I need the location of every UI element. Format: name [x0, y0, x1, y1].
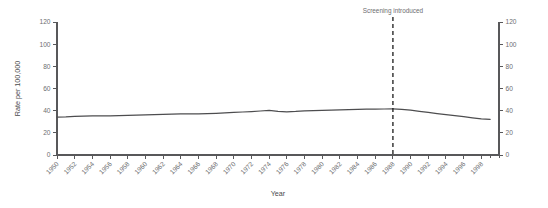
y-axis-right: 020406080100120 — [499, 18, 517, 158]
annotation-group: Screening introduced — [363, 7, 424, 155]
y-axis-right-tick-label: 100 — [506, 41, 517, 48]
y-axis-left: 020406080100120 — [39, 18, 57, 158]
x-axis-tick-label: 1978 — [292, 160, 308, 176]
x-axis-tick-label: 1962 — [151, 160, 167, 176]
x-axis-tick-label: 1986 — [363, 160, 379, 176]
y-axis-tick-label: 60 — [43, 85, 51, 92]
data-series-group — [57, 109, 490, 119]
x-axis-tick-label: 1956 — [98, 160, 114, 176]
x-axis-tick-label: 1992 — [416, 160, 432, 176]
x-axis-tick-label: 1972 — [239, 160, 255, 176]
line-chart: 020406080100120 020406080100120 19501952… — [0, 0, 548, 208]
x-axis-tick-label: 1950 — [45, 160, 61, 176]
x-axis-tick-label: 1976 — [274, 160, 290, 176]
y-axis-tick-label: 120 — [39, 18, 50, 25]
x-axis-tick-label: 1988 — [381, 160, 397, 176]
x-axis-tick-label: 1952 — [62, 160, 78, 176]
x-axis-tick-label: 1968 — [204, 160, 220, 176]
y-axis-right-tick-label: 80 — [506, 63, 514, 70]
y-axis-tick-label: 0 — [47, 151, 51, 158]
x-axis-tick-label: 1954 — [80, 160, 96, 176]
x-axis-tick-label: 1984 — [345, 160, 361, 176]
y-axis-tick-label: 100 — [39, 41, 50, 48]
screening-introduced-label: Screening introduced — [363, 7, 424, 15]
x-axis-tick-label: 1982 — [327, 160, 343, 176]
x-axis-tick-label: 1960 — [133, 160, 149, 176]
y-axis-tick-label: 40 — [43, 107, 51, 114]
chart-container: 020406080100120 020406080100120 19501952… — [0, 0, 548, 208]
x-axis-tick-label: 1974 — [257, 160, 273, 176]
y-axis-right-tick-label: 120 — [506, 18, 517, 25]
x-axis-tick-label: 1996 — [451, 160, 467, 176]
series-line-0 — [57, 109, 490, 119]
x-axis-tick-label: 1958 — [115, 160, 131, 176]
x-axis-tick-label: 1994 — [434, 160, 450, 176]
y-axis-right-tick-label: 60 — [506, 85, 514, 92]
y-axis-right-tick-label: 20 — [506, 129, 514, 136]
x-axis-tick-label: 1998 — [469, 160, 485, 176]
x-axis: 1950195219541956195819601962196419661968… — [45, 155, 499, 176]
y-axis-right-tick-label: 0 — [506, 151, 510, 158]
y-axis-tick-label: 80 — [43, 63, 51, 70]
x-axis-tick-label: 1970 — [221, 160, 237, 176]
x-axis-tick-label: 1990 — [398, 160, 414, 176]
y-axis-tick-label: 20 — [43, 129, 51, 136]
x-axis-title: Year — [271, 189, 286, 198]
y-axis-right-tick-label: 40 — [506, 107, 514, 114]
x-axis-tick-label: 1966 — [186, 160, 202, 176]
x-axis-tick-label: 1964 — [168, 160, 184, 176]
x-axis-tick-label: 1980 — [310, 160, 326, 176]
y-axis-title: Rate per 100,000 — [13, 61, 22, 117]
